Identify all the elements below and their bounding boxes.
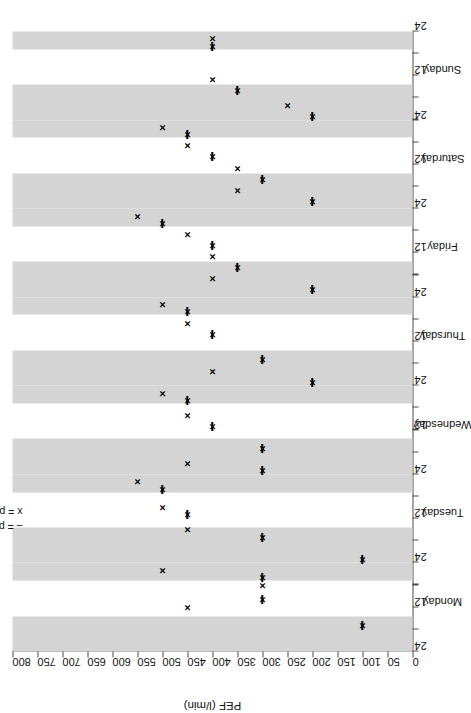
y-tick-label: 150: [337, 655, 355, 667]
shaded-band: [12, 527, 412, 562]
post-bronchodilator-point: ×: [309, 110, 315, 121]
x-tick-label: 24: [414, 19, 426, 31]
y-tick-label: 300: [262, 655, 280, 667]
x-day-label: Tuesday: [421, 506, 463, 518]
x-tick-label: 24: [414, 373, 426, 385]
post-bronchodilator-point: ×: [359, 553, 365, 564]
post-bronchodilator-point: ×: [259, 531, 265, 542]
post-bronchodilator-point: ×: [184, 306, 190, 317]
y-tick-label: 800: [12, 655, 30, 667]
post-bronchodilator-point: ×: [209, 151, 215, 162]
x-day-label: Saturday: [420, 152, 464, 164]
post-bronchodilator-point: ×: [184, 601, 190, 612]
post-bronchodilator-point: ×: [184, 409, 190, 420]
post-bronchodilator-point: ×: [284, 99, 290, 110]
y-tick-label: 600: [112, 655, 130, 667]
x-tick: [412, 583, 418, 584]
x-tick: [412, 362, 418, 363]
post-bronchodilator-point: ×: [359, 620, 365, 631]
post-bronchodilator-point: ×: [134, 476, 140, 487]
y-tick-label: 500: [162, 655, 180, 667]
post-bronchodilator-point: ×: [209, 73, 215, 84]
shaded-band: [12, 438, 412, 473]
post-bronchodilator-point: ×: [159, 387, 165, 398]
post-bronchodilator-point: ×: [184, 509, 190, 520]
y-tick-label: 450: [187, 655, 205, 667]
post-bronchodilator-point: ×: [184, 140, 190, 151]
post-bronchodilator-point: ×: [209, 365, 215, 376]
post-bronchodilator-point: ×: [159, 564, 165, 575]
x-tick: [412, 273, 418, 274]
post-bronchodilator-point: ×: [159, 502, 165, 513]
y-tick-label: 650: [87, 655, 105, 667]
shaded-band: [12, 84, 412, 119]
legend-entry-pre: – = pre–bronchodilator: [0, 518, 22, 533]
post-bronchodilator-point: ×: [209, 240, 215, 251]
post-bronchodilator-point: ×: [159, 299, 165, 310]
x-day-label: Wednesday: [413, 418, 471, 430]
post-bronchodilator-point: ×: [259, 443, 265, 454]
x-tick-label: 24: [414, 639, 426, 651]
chart-legend: – = pre–bronchodilator x = post–bronchod…: [0, 503, 22, 533]
post-bronchodilator-point: ×: [234, 85, 240, 96]
y-axis-title: PEF (l/min): [183, 699, 241, 711]
shaded-band: [12, 385, 412, 403]
y-tick-label: 100: [362, 655, 380, 667]
post-bronchodilator-point: ×: [184, 228, 190, 239]
post-bronchodilator-point: ×: [209, 33, 215, 44]
x-day-label: Thursday: [419, 329, 465, 341]
post-bronchodilator-point: ×: [234, 262, 240, 273]
shaded-band: [12, 208, 412, 226]
post-bronchodilator-point: ×: [184, 129, 190, 140]
x-tick: [412, 495, 418, 496]
x-tick: [412, 628, 418, 629]
x-tick-label: 24: [414, 108, 426, 120]
post-bronchodilator-point: ×: [309, 376, 315, 387]
plot-area: 0501001502002503003504004505005506006507…: [12, 31, 412, 651]
y-tick-label: 400: [212, 655, 230, 667]
post-bronchodilator-point: ×: [209, 328, 215, 339]
post-bronchodilator-point: ×: [209, 251, 215, 262]
legend-entry-post: x = post–bronchodilator: [0, 503, 22, 518]
post-bronchodilator-point: ×: [259, 594, 265, 605]
x-tick: [412, 406, 418, 407]
x-tick-label: 24: [414, 285, 426, 297]
x-day-label: Sunday: [423, 63, 460, 75]
x-tick: [412, 185, 418, 186]
shaded-band: [12, 173, 412, 208]
x-tick: [412, 539, 418, 540]
post-bronchodilator-point: ×: [309, 284, 315, 295]
post-bronchodilator-point: ×: [159, 483, 165, 494]
post-bronchodilator-point: ×: [259, 354, 265, 365]
x-tick: [412, 451, 418, 452]
x-tick-label: 24: [414, 196, 426, 208]
post-bronchodilator-point: ×: [184, 395, 190, 406]
post-bronchodilator-point: ×: [209, 273, 215, 284]
y-tick-label: 0: [412, 655, 418, 667]
post-bronchodilator-point: ×: [234, 184, 240, 195]
y-tick-label: 250: [287, 655, 305, 667]
y-tick-label: 750: [37, 655, 55, 667]
x-tick-label: 24: [414, 462, 426, 474]
shaded-band: [12, 474, 412, 492]
shaded-band: [12, 562, 412, 580]
x-day-label: Monday: [422, 595, 461, 607]
post-bronchodilator-point: ×: [159, 121, 165, 132]
post-bronchodilator-point: ×: [184, 317, 190, 328]
post-bronchodilator-point: ×: [309, 195, 315, 206]
y-tick-label: 700: [62, 655, 80, 667]
y-tick-label: 200: [312, 655, 330, 667]
x-tick: [412, 96, 418, 97]
shaded-band: [12, 297, 412, 315]
x-tick: [412, 52, 418, 53]
x-tick: [412, 318, 418, 319]
x-tick-label: 24: [414, 550, 426, 562]
x-tick-label: 12: [414, 240, 426, 252]
x-day-label: Friday: [427, 240, 458, 252]
shaded-band: [12, 616, 412, 651]
post-bronchodilator-point: ×: [259, 465, 265, 476]
y-tick-label: 350: [237, 655, 255, 667]
y-tick-label: 550: [137, 655, 155, 667]
